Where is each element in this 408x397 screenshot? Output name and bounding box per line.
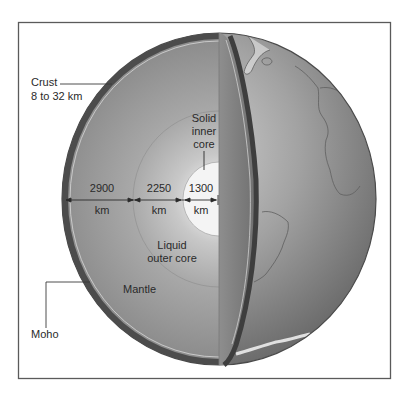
crust-label: Crust [31,76,57,89]
core-label: core [193,138,214,151]
liquid-label: Liquid [157,239,186,252]
moho-label: Moho [31,328,59,341]
earth-layers-diagram: Crust 8 to 32 km Solid inner core 2900 k… [0,0,408,397]
outer-core-thickness-unit: km [152,204,167,217]
outer-core-thickness-value: 2250 [147,182,171,195]
inner-core-thickness-unit: km [194,204,209,217]
inner-label: inner [192,125,216,138]
diagram-canvas [0,0,408,397]
outer-core-label: outer core [147,252,197,265]
mantle-thickness-unit: km [95,204,110,217]
mantle-thickness-value: 2900 [90,182,114,195]
solid-label: Solid [192,112,216,125]
mantle-label: Mantle [123,283,156,296]
crust-thickness-label: 8 to 32 km [31,90,82,103]
inner-core-thickness-value: 1300 [189,182,213,195]
